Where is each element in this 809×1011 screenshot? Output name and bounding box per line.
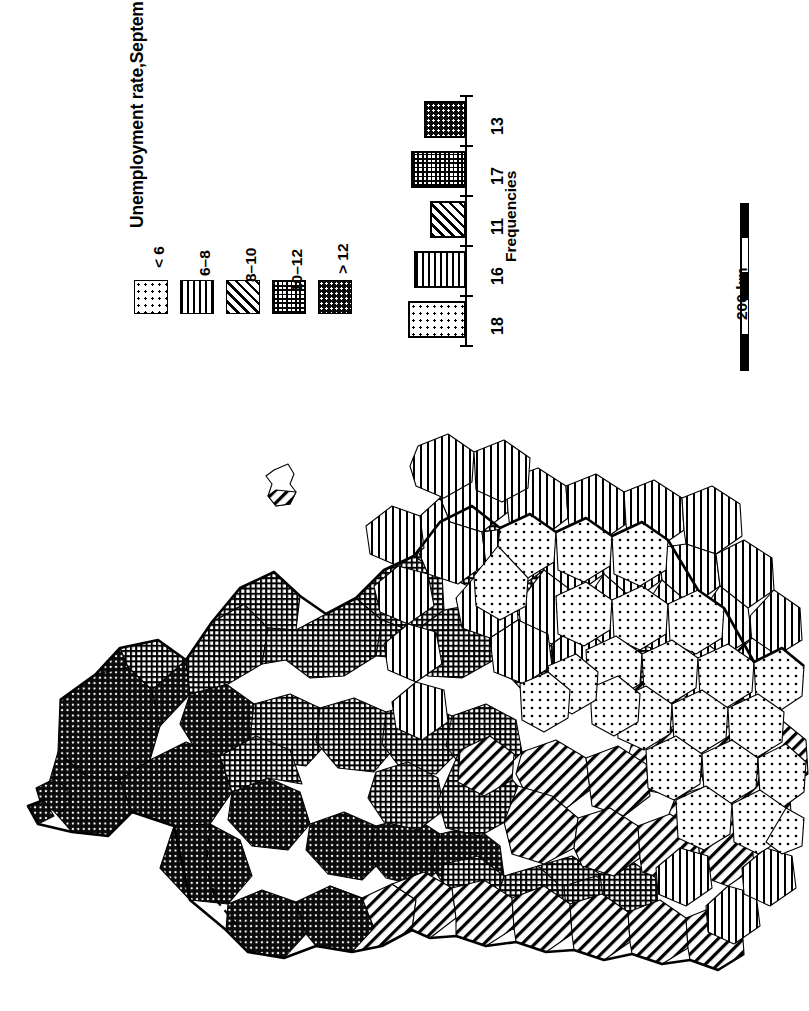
map-svg: [0, 0, 809, 1011]
france-departements-choropleth: [0, 0, 809, 1011]
inset-corsica[interactable]: [266, 464, 296, 506]
figure-canvas: Unemployment rate,September 1986 < 6 6–8…: [0, 0, 809, 1011]
map-departements: [28, 434, 808, 970]
